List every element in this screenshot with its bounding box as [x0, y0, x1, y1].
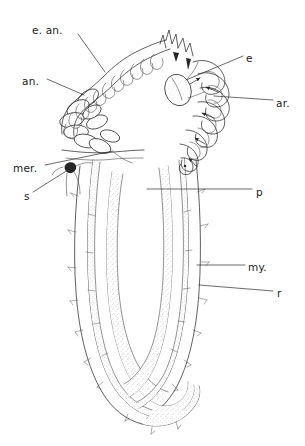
label-p: p	[256, 186, 263, 198]
label-e: e	[246, 52, 253, 64]
terminal-loop-dot	[184, 165, 187, 168]
label-e-an: e. an.	[32, 24, 63, 36]
label-mer: mer.	[13, 162, 37, 174]
canvas-background	[0, 0, 305, 446]
anatomical-diagram: e. an. an. mer. s e ar. p my. r	[0, 0, 305, 446]
label-my: my.	[248, 261, 267, 273]
label-r: r	[277, 287, 282, 299]
label-an: an.	[22, 75, 39, 87]
figure-container: e. an. an. mer. s e ar. p my. r	[0, 0, 305, 446]
label-ar: ar.	[276, 97, 290, 109]
label-s: s	[24, 190, 30, 202]
